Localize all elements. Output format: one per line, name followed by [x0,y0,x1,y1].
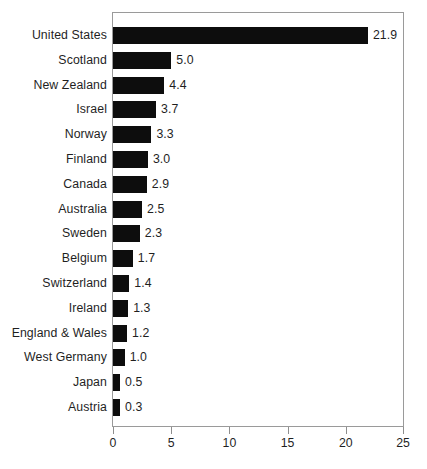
category-label: Switzerland [0,275,107,292]
bar [113,151,148,168]
bar-chart: United StatesScotlandNew ZealandIsraelNo… [0,0,427,469]
x-tick-label: 15 [281,436,295,451]
bar-value-label: 1.3 [133,300,150,317]
category-label: United States [0,27,107,44]
category-label: England & Wales [0,325,107,342]
scan-artifact [0,463,427,469]
category-label: Scotland [0,52,107,69]
category-label: Australia [0,201,107,218]
bar [113,349,125,366]
bar [113,300,128,317]
category-label: Israel [0,101,107,118]
category-label: New Zealand [0,77,107,94]
bar-value-label: 2.3 [145,225,162,242]
x-tick-mark [113,427,114,434]
x-tick-mark [229,427,230,434]
category-label: Sweden [0,225,107,242]
x-tick-mark [288,427,289,434]
bar-value-label: 2.5 [147,201,164,218]
x-tick-mark [171,427,172,434]
category-label: Norway [0,126,107,143]
bar-value-label: 0.5 [125,374,142,391]
bar-value-label: 3.3 [156,126,173,143]
x-tick-label: 25 [396,436,410,451]
bar [113,176,147,193]
bar-value-label: 3.7 [161,101,178,118]
bar [113,225,140,242]
bar-value-label: 0.3 [125,399,142,416]
category-label: Canada [0,176,107,193]
bar [113,275,129,292]
x-tick-mark [346,427,347,434]
bar-value-label: 21.9 [373,27,397,44]
bar [113,52,171,69]
bar [113,325,127,342]
bar-value-label: 2.9 [152,176,169,193]
x-tick-mark [403,427,404,434]
x-tick-label: 0 [110,436,117,451]
bar [113,250,133,267]
category-label: West Germany [0,349,107,366]
bar-value-label: 1.7 [138,250,155,267]
x-tick-label: 5 [168,436,175,451]
bar-value-label: 5.0 [176,52,193,69]
bar [113,399,120,416]
bars-layer: 21.95.04.43.73.33.02.92.52.31.71.41.31.2… [113,12,404,427]
bar-value-label: 1.0 [130,349,147,366]
bar [113,101,156,118]
bar-value-label: 4.4 [169,77,186,94]
category-label: Belgium [0,250,107,267]
category-label: Finland [0,151,107,168]
bar [113,201,142,218]
bar-value-label: 1.4 [134,275,151,292]
bar-value-label: 1.2 [132,325,149,342]
x-tick-label: 10 [223,436,237,451]
bar [113,27,368,44]
category-label: Japan [0,374,107,391]
x-tick-label: 20 [339,436,353,451]
bar [113,126,151,143]
category-label: Ireland [0,300,107,317]
bar-value-label: 3.0 [153,151,170,168]
bar [113,77,164,94]
bar [113,374,120,391]
category-label: Austria [0,399,107,416]
